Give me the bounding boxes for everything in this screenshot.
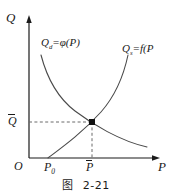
figure-container: Q P O P0 P Q Qd=φ(P) Qs=f(P 图2-21	[0, 0, 172, 194]
supply-label-rhs: =f(P	[133, 42, 154, 54]
figure-caption: 图2-21	[0, 176, 172, 192]
supply-curve	[48, 55, 128, 158]
demand-curve-label: Qd=φ(P)	[41, 37, 80, 51]
x-tick-label-p0: P0	[44, 161, 55, 176]
x-tick-label-pbar: P	[86, 161, 93, 173]
y-axis-label: Q	[6, 11, 15, 24]
x-tick-pbar-base: P	[86, 161, 93, 173]
caption-label: 图	[62, 179, 74, 192]
y-tick-label-qbar: Q	[8, 115, 17, 127]
supply-label-lhs: Q	[122, 42, 130, 54]
demand-label-lhs: Q	[41, 36, 49, 48]
demand-curve	[41, 55, 147, 147]
x-axis-label: P	[158, 160, 166, 173]
y-axis-arrow-icon	[26, 15, 31, 23]
caption-number: 2-21	[83, 179, 110, 192]
y-tick-qbar-base: Q	[8, 115, 17, 127]
supply-curve-label: Qs=f(P	[122, 43, 153, 57]
origin-label: O	[14, 160, 23, 172]
demand-label-rhs: =φ(P)	[52, 36, 80, 48]
equilibrium-point-marker	[89, 119, 95, 125]
